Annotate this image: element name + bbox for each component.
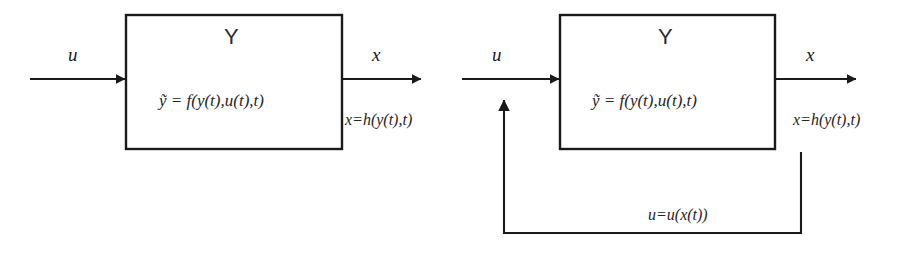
closed-loop-input-label: u (492, 45, 502, 64)
open-loop-output-label: x (372, 45, 380, 64)
closed-loop-output-label: x (806, 45, 814, 64)
diagram-vector-layer (0, 0, 916, 255)
closed-loop-state-equation: ỹ = f(y(t),u(t),t) (592, 92, 697, 109)
open-loop-output-equation: x=h(y(t),t) (345, 112, 412, 128)
feedback-equation-label: u=u(x(t)) (648, 207, 708, 223)
diagram-canvas: u Y ỹ = f(y(t),u(t),t) x x=h(y(t),t) u Y… (0, 0, 916, 255)
closed-loop-system-label: Y (658, 26, 673, 48)
open-loop-input-label: u (68, 45, 78, 64)
open-loop-state-equation: ỹ = f(y(t),u(t),t) (159, 92, 264, 109)
closed-loop-output-equation: x=h(y(t),t) (793, 112, 860, 128)
open-loop-system-label: Y (224, 26, 239, 48)
